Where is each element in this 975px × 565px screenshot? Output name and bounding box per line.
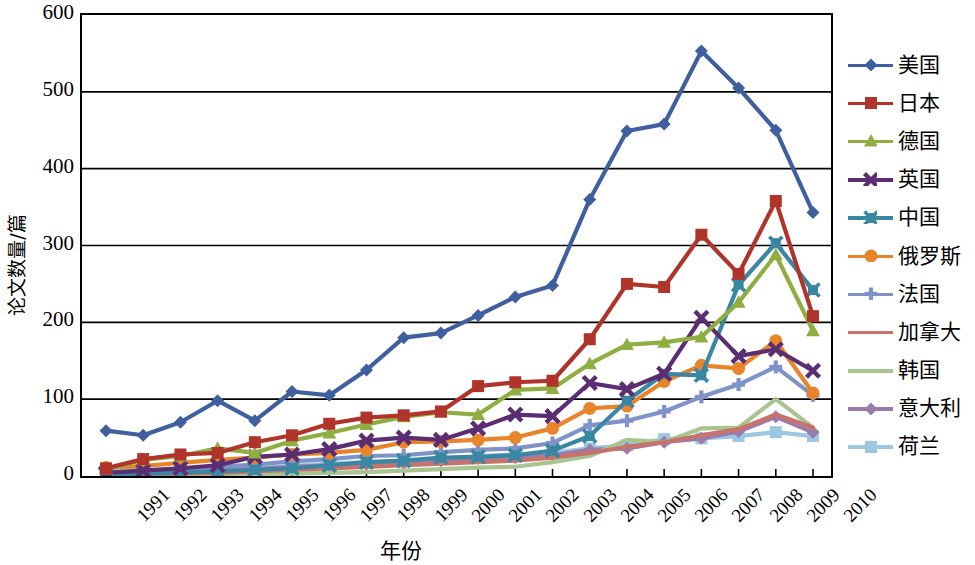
legend-swatch: [848, 361, 893, 381]
legend-marker-plus-icon: [861, 284, 877, 300]
data-point: [434, 327, 447, 340]
x-tick-label: 2005: [653, 484, 695, 526]
data-point: [583, 402, 596, 415]
legend-swatch: [848, 437, 893, 457]
y-tick-label: 0: [28, 463, 74, 484]
data-point: [658, 281, 670, 293]
legend-line: [848, 369, 893, 373]
data-point: [286, 429, 298, 441]
data-point: [807, 310, 819, 322]
data-point: [658, 405, 671, 418]
data-point: [546, 422, 559, 435]
data-point: [695, 229, 707, 241]
legend-swatch: [848, 131, 893, 151]
x-axis-title: 年份: [380, 534, 422, 564]
data-point: [733, 268, 745, 280]
data-point: [547, 375, 559, 387]
data-point: [360, 412, 372, 424]
data-point: [212, 447, 224, 459]
legend-label: 意大利: [898, 398, 961, 419]
legend-item-2[interactable]: 德国: [848, 122, 975, 160]
x-tick-label: 2004: [616, 484, 658, 526]
legend-item-3[interactable]: 英国: [848, 161, 975, 199]
data-point: [807, 364, 820, 377]
x-tick-label: 1993: [207, 484, 249, 526]
x-tick-label: 2002: [541, 484, 583, 526]
data-point: [732, 378, 745, 391]
legend-marker-x-icon: [861, 170, 877, 186]
data-point: [584, 333, 596, 345]
legend-swatch: [848, 399, 893, 419]
x-tick-label: 2009: [802, 484, 844, 526]
legend-item-1[interactable]: 日本: [848, 84, 975, 122]
legend-swatch: [848, 170, 893, 190]
legend-label: 韩国: [898, 360, 940, 381]
y-axis-tick-labels: 6005004003002001000: [20, 0, 74, 565]
legend-swatch: [848, 55, 893, 75]
data-point: [137, 429, 150, 442]
data-point: [100, 462, 112, 474]
data-point: [435, 405, 447, 417]
data-point: [323, 418, 335, 430]
data-point: [807, 387, 820, 400]
data-point: [546, 444, 559, 457]
legend-line: [848, 331, 893, 335]
data-point: [100, 424, 113, 437]
data-point: [695, 390, 708, 403]
legend-label: 日本: [898, 93, 940, 114]
legend: 美国日本德国英国中国俄罗斯法国加拿大韩国意大利荷兰: [848, 46, 975, 466]
chart-figure: 论文数量/篇 6005004003002001000 1991199219931…: [0, 0, 975, 565]
legend-marker-triangle-icon: [861, 131, 877, 147]
data-point: [286, 462, 299, 475]
legend-label: 美国: [898, 55, 940, 76]
y-tick-label: 200: [28, 309, 74, 330]
data-point: [397, 454, 410, 467]
legend-swatch: [848, 93, 893, 113]
x-tick-label: 2010: [839, 484, 881, 526]
data-point: [770, 426, 782, 438]
x-tick-label: 1999: [430, 484, 472, 526]
data-point: [546, 279, 559, 292]
legend-swatch: [848, 284, 893, 304]
legend-marker-xbox-icon: [861, 208, 877, 224]
legend-label: 中国: [898, 207, 940, 228]
legend-marker-circle-icon: [861, 246, 877, 262]
x-tick-label: 1992: [169, 484, 211, 526]
x-tick-label: 2001: [504, 484, 546, 526]
legend-label: 俄罗斯: [898, 246, 961, 267]
legend-item-5[interactable]: 俄罗斯: [848, 237, 975, 275]
y-tick-label: 400: [28, 156, 74, 177]
data-point: [732, 362, 745, 375]
data-point: [620, 414, 633, 427]
data-point: [807, 284, 820, 297]
legend-item-0[interactable]: 美国: [848, 46, 975, 84]
legend-item-7[interactable]: 加拿大: [848, 313, 975, 351]
legend-item-8[interactable]: 韩国: [848, 352, 975, 390]
x-tick-label: 1997: [355, 484, 397, 526]
data-point: [323, 459, 336, 472]
legend-marker-square-icon: [861, 93, 877, 109]
x-tick-label: 2008: [765, 484, 807, 526]
data-point: [509, 376, 521, 388]
legend-marker-square-icon: [861, 437, 877, 453]
x-tick-label: 2000: [467, 484, 509, 526]
legend-item-10[interactable]: 荷兰: [848, 428, 975, 466]
plot-area: [80, 13, 833, 478]
data-point: [249, 436, 261, 448]
data-point: [174, 448, 186, 460]
legend-swatch: [848, 322, 893, 342]
data-point: [806, 324, 820, 337]
legend-item-6[interactable]: 法国: [848, 275, 975, 313]
data-point: [621, 278, 633, 290]
legend-item-9[interactable]: 意大利: [848, 390, 975, 428]
legend-label: 德国: [898, 131, 940, 152]
legend-label: 英国: [898, 169, 940, 190]
legend-item-4[interactable]: 中国: [848, 199, 975, 237]
legend-swatch: [848, 246, 893, 266]
x-tick-label: 2006: [690, 484, 732, 526]
legend-swatch: [848, 208, 893, 228]
data-point: [360, 456, 373, 469]
x-tick-label: 1991: [132, 484, 174, 526]
legend-marker-diamond-icon: [861, 399, 877, 415]
data-point: [807, 206, 820, 219]
